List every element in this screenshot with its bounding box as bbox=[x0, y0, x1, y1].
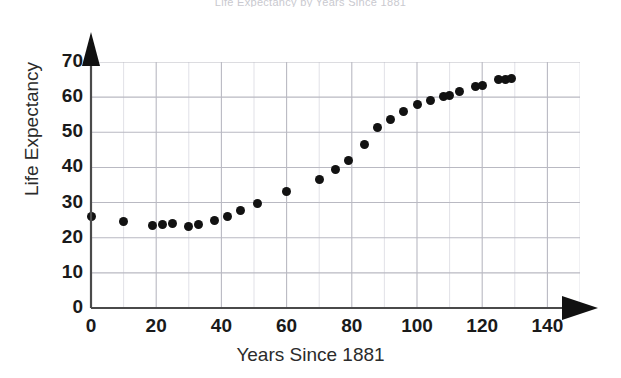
x-tick-label: 60 bbox=[262, 315, 312, 337]
data-point bbox=[426, 96, 435, 105]
data-point bbox=[148, 221, 157, 230]
data-point bbox=[445, 91, 454, 100]
data-point bbox=[282, 187, 291, 196]
chart-title: Life Expectancy by Years Since 1881 bbox=[0, 0, 621, 7]
data-point bbox=[119, 217, 128, 226]
data-point bbox=[373, 123, 382, 132]
x-tick-label: 0 bbox=[66, 315, 116, 337]
data-point bbox=[360, 140, 369, 149]
y-tick-label: 40 bbox=[41, 155, 83, 177]
scatter-plot-figure: Life Expectancy by Years Since 1881 0102… bbox=[0, 0, 621, 378]
data-point bbox=[236, 206, 245, 215]
x-tick-label: 120 bbox=[457, 315, 507, 337]
data-point bbox=[455, 87, 464, 96]
x-tick-label: 140 bbox=[522, 315, 572, 337]
data-point bbox=[194, 220, 203, 229]
data-point bbox=[344, 156, 353, 165]
data-point bbox=[223, 212, 232, 221]
data-point bbox=[253, 199, 262, 208]
x-tick-label: 20 bbox=[131, 315, 181, 337]
data-point bbox=[331, 165, 340, 174]
data-point bbox=[315, 175, 324, 184]
data-point bbox=[478, 81, 487, 90]
x-axis-title: Years Since 1881 bbox=[0, 344, 621, 366]
y-tick-label: 20 bbox=[41, 226, 83, 248]
data-points-layer bbox=[91, 62, 580, 308]
y-tick-label: 10 bbox=[41, 261, 83, 283]
data-point bbox=[507, 74, 516, 83]
x-tick-label: 100 bbox=[392, 315, 442, 337]
y-tick-label: 70 bbox=[41, 50, 83, 72]
data-point bbox=[87, 212, 96, 221]
plot-area bbox=[91, 62, 580, 308]
y-axis-title: Life Expectancy bbox=[21, 19, 43, 239]
data-point bbox=[210, 216, 219, 225]
x-tick-label: 80 bbox=[327, 315, 377, 337]
data-point bbox=[184, 222, 193, 231]
x-tick-label: 40 bbox=[196, 315, 246, 337]
data-point bbox=[158, 220, 167, 229]
y-axis-arrowhead bbox=[82, 32, 100, 66]
data-point bbox=[168, 219, 177, 228]
y-tick-label: 60 bbox=[41, 85, 83, 107]
data-point bbox=[386, 115, 395, 124]
data-point bbox=[413, 100, 422, 109]
data-point bbox=[399, 107, 408, 116]
y-tick-label: 30 bbox=[41, 191, 83, 213]
y-tick-label: 50 bbox=[41, 120, 83, 142]
